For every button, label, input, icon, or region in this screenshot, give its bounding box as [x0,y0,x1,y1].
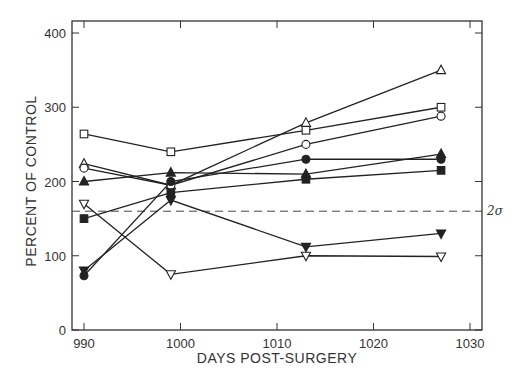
data-series [79,65,445,280]
series-line [84,107,441,152]
filled-square-marker [167,189,175,197]
filled-square-marker [302,175,310,183]
filled-triangle-down-marker [301,243,310,252]
series-open-triangle-down [79,200,445,279]
open-circle-marker [437,112,445,120]
filled-triangle-up-marker [436,149,445,158]
reference-lines: 2σ [72,204,504,218]
open-circle-marker [80,164,88,172]
filled-circle-marker [302,155,310,163]
x-tick-label: 1020 [359,336,388,351]
y-tick-label: 300 [44,100,66,115]
y-tick-label: 400 [44,26,66,41]
open-circle-marker [302,140,310,148]
line-chart: 99010001010102010300100200300400 2σ DAYS… [0,0,517,381]
filled-square-marker [437,167,445,175]
x-tick-label: 1000 [166,336,195,351]
open-square-marker [302,126,310,134]
open-triangle-down-marker [79,200,88,209]
y-tick-label: 200 [44,175,66,190]
x-axis-title: DAYS POST-SURGERY [197,350,358,366]
filled-circle-marker [167,178,175,186]
series-line [84,116,441,185]
y-tick-label: 0 [59,323,66,338]
x-tick-label: 1010 [263,336,292,351]
axis-ticks: 99010001010102010300100200300400 [44,21,484,351]
open-triangle-down-marker [436,253,445,262]
filled-square-marker [80,215,88,223]
open-square-marker [80,130,88,138]
x-tick-label: 1030 [456,336,485,351]
filled-triangle-up-marker [166,168,175,177]
series-line [84,200,441,271]
two-sigma-label: 2σ [486,204,504,218]
open-square-marker [437,103,445,111]
series-open-circle [80,112,445,189]
series-filled-square [80,167,445,223]
x-tick-label: 990 [73,336,95,351]
open-triangle-up-marker [436,65,445,74]
series-filled-triangle-down [79,197,445,276]
open-square-marker [167,148,175,156]
y-tick-label: 100 [44,249,66,264]
open-triangle-down-marker [166,271,175,280]
y-axis-title: PERCENT OF CONTROL [23,95,39,266]
series-open-square [80,103,445,155]
